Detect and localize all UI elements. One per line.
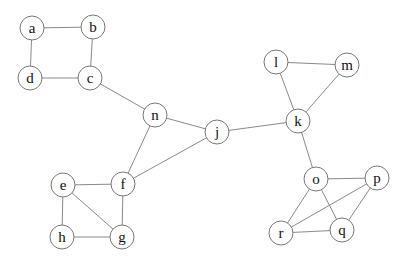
edge-p-r xyxy=(281,178,377,233)
node-label: q xyxy=(338,222,346,238)
node-label: j xyxy=(214,124,219,140)
node-c: c xyxy=(78,66,102,90)
node-j: j xyxy=(205,120,229,144)
node-label: k xyxy=(294,113,302,129)
node-o: o xyxy=(304,167,328,191)
node-label: b xyxy=(89,19,97,35)
node-b: b xyxy=(81,15,105,39)
node-l: l xyxy=(264,50,288,74)
node-q: q xyxy=(330,218,354,242)
node-n: n xyxy=(143,103,167,127)
node-d: d xyxy=(18,66,42,90)
node-label: p xyxy=(373,170,381,186)
edges-layer xyxy=(30,27,377,237)
node-label: f xyxy=(121,176,126,192)
node-label: a xyxy=(29,20,36,36)
node-p: p xyxy=(365,166,389,190)
node-label: d xyxy=(26,70,34,86)
node-label: l xyxy=(274,54,278,70)
node-f: f xyxy=(111,172,135,196)
edge-f-j xyxy=(123,132,217,184)
node-label: e xyxy=(60,177,67,193)
node-label: h xyxy=(58,229,66,245)
node-a: a xyxy=(20,16,44,40)
node-h: h xyxy=(50,225,74,249)
node-label: m xyxy=(341,57,353,73)
node-r: r xyxy=(269,221,293,245)
node-label: c xyxy=(87,70,94,86)
node-k: k xyxy=(286,109,310,133)
node-label: n xyxy=(151,107,159,123)
graph-diagram: abcdnjfehgklmoprq xyxy=(0,0,408,264)
node-label: r xyxy=(279,225,284,241)
node-e: e xyxy=(51,173,75,197)
node-label: o xyxy=(312,171,320,187)
node-label: g xyxy=(118,229,126,245)
node-m: m xyxy=(335,53,359,77)
node-g: g xyxy=(110,225,134,249)
